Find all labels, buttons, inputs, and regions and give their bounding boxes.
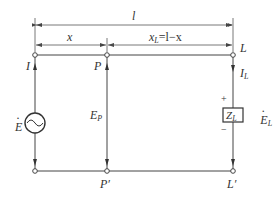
node-p: P xyxy=(94,60,101,72)
node-p-prime: P′ xyxy=(100,178,110,190)
label-zl: ZL xyxy=(226,110,237,123)
label-xl: xL=l−x xyxy=(149,31,182,45)
label-source-e: E xyxy=(15,120,22,134)
label-el: EL xyxy=(260,113,272,127)
node-l-prime: L′ xyxy=(227,178,236,190)
label-ep: EP xyxy=(90,109,102,123)
node-i: I xyxy=(26,60,30,72)
polarity-minus: − xyxy=(221,125,227,135)
label-il: IL xyxy=(240,67,248,81)
label-total-length: l xyxy=(132,10,135,22)
node-l: L xyxy=(240,42,247,54)
circuit-diagram: l x xL=l−x I P L P′ L′ E EP IL ZL EL + − xyxy=(0,0,277,198)
label-x: x xyxy=(67,31,72,43)
polarity-plus: + xyxy=(221,94,227,104)
circuit-lines xyxy=(0,0,277,198)
